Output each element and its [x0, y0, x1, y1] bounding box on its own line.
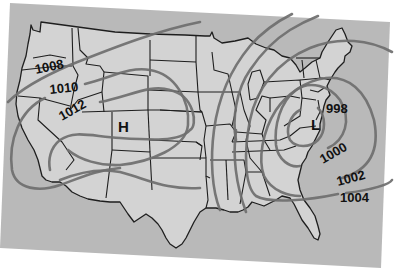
label-998: 998 — [326, 101, 348, 116]
label-1004: 1004 — [340, 190, 370, 205]
high-pressure-marker: H — [118, 118, 129, 135]
low-pressure-marker: L — [311, 116, 320, 133]
weather-map: 1008 1010 1012 998 1000 1002 1004 H L — [0, 0, 394, 274]
label-1010: 1010 — [49, 79, 79, 97]
weather-map-svg: 1008 1010 1012 998 1000 1002 1004 H L — [0, 0, 394, 274]
